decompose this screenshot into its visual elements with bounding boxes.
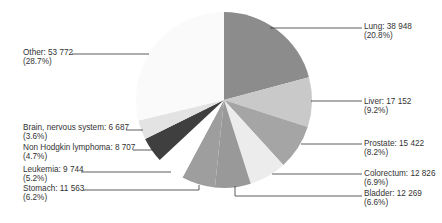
- slice-percent-other: (28.7%): [23, 57, 52, 66]
- pie-slices: [136, 12, 312, 188]
- slice-label-leukemia: Leukemia: 9 744: [23, 165, 84, 174]
- slice-label-colorectum: Colorectum: 12 826: [364, 169, 436, 178]
- slice-percent-bladder: (6.6%): [364, 198, 388, 207]
- slice-label-other: Other: 53 772: [23, 48, 74, 57]
- slice-label-lung: Lung: 38 948: [364, 22, 412, 31]
- slice-percent-brain-nervous-system: (3.6%): [23, 132, 47, 141]
- slice-label-liver: Liver: 17 152: [364, 97, 412, 106]
- slice-percent-stomach: (6.2%): [23, 193, 47, 202]
- slice-percent-prostate: (8.2%): [364, 148, 388, 157]
- leader-line-bladder: [235, 186, 362, 196]
- slice-percent-lung: (20.8%): [364, 31, 393, 40]
- slice-label-stomach: Stomach: 11 563: [23, 184, 85, 193]
- pie-chart: Lung: 38 948(20.8%)Liver: 17 152(9.2%)Pr…: [0, 0, 442, 223]
- slice-label-prostate: Prostate: 15 422: [364, 139, 425, 148]
- slice-percent-leukemia: (5.2%): [23, 174, 47, 183]
- slice-label-non-hodgkin-lymphoma: Non Hodgkin lymphoma: 8 707: [23, 143, 136, 152]
- slice-label-brain-nervous-system: Brain, nervous system: 6 687: [23, 123, 129, 132]
- slice-percent-liver: (9.2%): [364, 106, 388, 115]
- slice-percent-colorectum: (6.9%): [364, 178, 388, 187]
- slice-percent-non-hodgkin-lymphoma: (4.7%): [23, 152, 47, 161]
- leader-line-stomach: [83, 185, 199, 190]
- slice-label-bladder: Bladder: 12 269: [364, 189, 422, 198]
